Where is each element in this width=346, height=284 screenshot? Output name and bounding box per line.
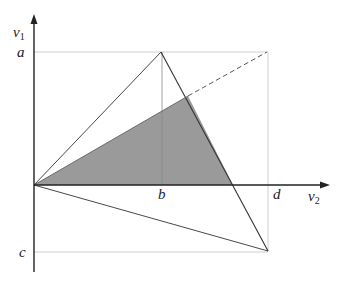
axis-label-v2: v2 [308,188,320,206]
diagram-canvas: v1 v2 a b c d [0,0,346,284]
dashed-diagonal [188,52,267,96]
tick-label-b: b [158,186,166,202]
horizontal-axis-arrow-icon [320,182,330,189]
vertical-axis-arrow-icon [31,14,38,24]
tick-label-d: d [273,186,281,202]
shaded-region [34,96,233,185]
tick-label-c: c [19,244,26,260]
tick-label-a: a [17,44,25,60]
axis-label-v1: v1 [13,24,25,42]
edge-origin-bottom [34,185,268,251]
